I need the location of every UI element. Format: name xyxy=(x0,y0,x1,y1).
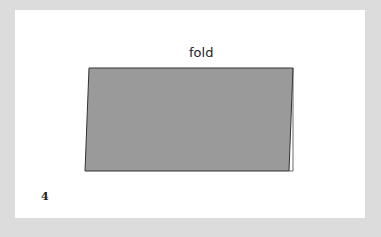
folded-flap xyxy=(85,68,293,171)
fold-label: fold xyxy=(189,45,213,60)
step-number: 4 xyxy=(41,190,49,203)
fold-diagram xyxy=(0,0,381,237)
